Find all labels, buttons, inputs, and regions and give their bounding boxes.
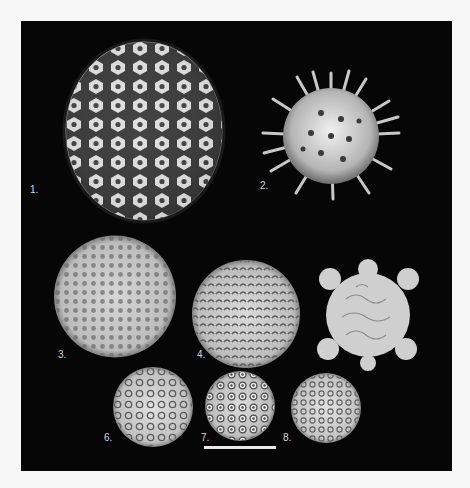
label-1: 1.	[30, 185, 38, 195]
virus-3-capsid	[53, 234, 177, 359]
label-2: 2.	[260, 181, 268, 191]
label-6: 6.	[104, 433, 112, 443]
virus-6-capsid	[112, 366, 194, 448]
virus-2-spiked	[261, 71, 401, 201]
virus-5-capsid	[316, 259, 420, 371]
virus-1-capsid	[63, 39, 225, 224]
virus-7-capsid	[204, 369, 276, 443]
label-5: 5.	[319, 350, 327, 360]
virus-4-capsid	[191, 258, 301, 370]
label-7: 7.	[201, 433, 209, 443]
virus-8-capsid	[290, 371, 362, 445]
label-8: 8.	[283, 433, 291, 443]
figure-panel: 1. 2.	[21, 21, 452, 471]
scale-bar	[204, 446, 276, 449]
label-3: 3.	[58, 350, 66, 360]
label-4: 4.	[197, 350, 205, 360]
